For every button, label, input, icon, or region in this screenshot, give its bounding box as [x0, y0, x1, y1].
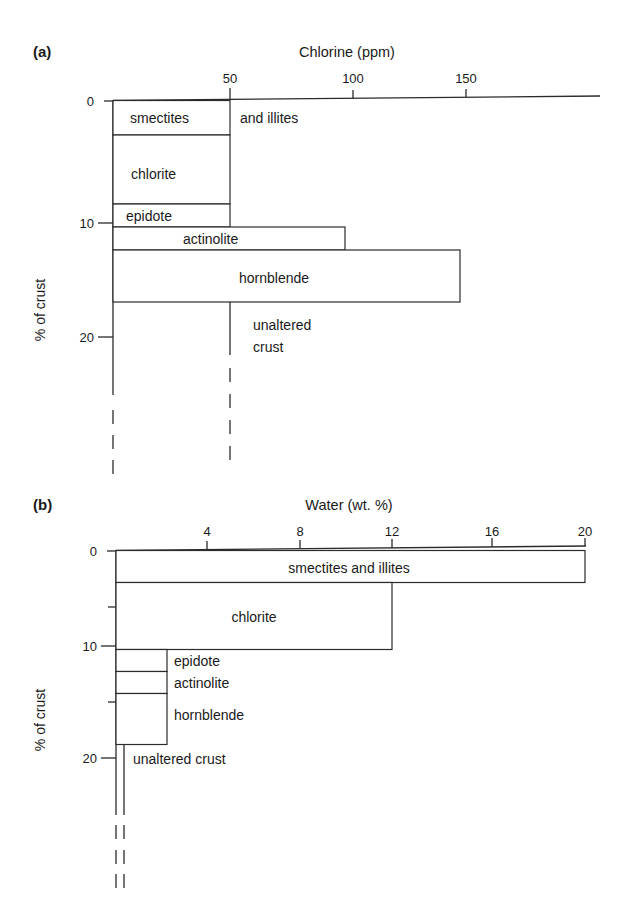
panel-a-label-and-illites: and illites: [240, 110, 298, 126]
panel-a-ytick-0: 0: [87, 94, 94, 109]
panel-b-ytick-20: 20: [83, 751, 97, 766]
panel-b-xtick-20: 20: [578, 524, 592, 539]
panel-b-xtick-16: 16: [485, 524, 499, 539]
panel-b-bar-actinolite: [116, 672, 167, 694]
panel-a-xtick-50: 50: [223, 71, 237, 86]
panel-a-xtick-150: 150: [455, 71, 477, 86]
panel-b-bar-hornblende: [116, 694, 167, 745]
panel-b-xtick-8: 8: [296, 524, 303, 539]
panel-b-chart: (b) Water (wt. %) 4 8 12 16 20 0 10 20 %…: [0, 470, 618, 898]
panel-b-xtick-4: 4: [203, 524, 210, 539]
panel-a-x-axis: [113, 96, 600, 101]
panel-a-chart: (a) Chlorine (ppm) 50 100 150 0 10 20 % …: [0, 0, 618, 480]
panel-a-letter: (a): [33, 43, 51, 60]
panel-b-label-hornblende: hornblende: [174, 707, 244, 723]
panel-b-letter: (b): [33, 496, 52, 513]
panel-b-label-chlorite: chlorite: [231, 609, 276, 625]
panel-a-ytick-10: 10: [80, 216, 94, 231]
panel-a-label-unaltered-2: crust: [253, 339, 283, 355]
panel-b-xtick-12: 12: [385, 524, 399, 539]
panel-b-label-smectites-illites: smectites and illites: [288, 560, 409, 576]
panel-b-y-axis-title: % of crust: [32, 689, 48, 751]
panel-b-ytick-10: 10: [83, 639, 97, 654]
panel-a-ytick-20: 20: [80, 330, 94, 345]
panel-a-y-axis-title: % of crust: [32, 279, 48, 341]
panel-a-axis-title: Chlorine (ppm): [299, 44, 395, 60]
figure-container: (a) Chlorine (ppm) 50 100 150 0 10 20 % …: [0, 0, 618, 898]
panel-a-label-epidote: epidote: [126, 208, 172, 224]
panel-b-label-unaltered: unaltered crust: [133, 751, 226, 767]
panel-a-label-smectites: smectites: [130, 110, 189, 126]
panel-b-label-actinolite: actinolite: [174, 675, 229, 691]
panel-b-axis-title: Water (wt. %): [305, 497, 392, 513]
panel-b-x-axis: [116, 546, 586, 551]
panel-b-label-epidote: epidote: [174, 653, 220, 669]
panel-a-label-unaltered-1: unaltered: [253, 317, 311, 333]
panel-a-label-hornblende: hornblende: [239, 270, 309, 286]
panel-b-bar-epidote: [116, 650, 167, 672]
panel-a-xtick-100: 100: [342, 71, 364, 86]
panel-b-ytick-0: 0: [90, 544, 97, 559]
panel-a-label-chlorite: chlorite: [131, 166, 176, 182]
panel-a-label-actinolite: actinolite: [183, 231, 238, 247]
